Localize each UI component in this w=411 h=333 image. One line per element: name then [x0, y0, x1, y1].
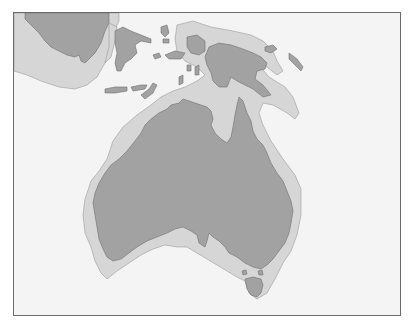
- bass-strait-island-1: [242, 270, 247, 275]
- new-ireland: [289, 53, 303, 71]
- map-frame: [13, 12, 401, 316]
- seram: [165, 51, 185, 59]
- tanimbar: [179, 75, 183, 85]
- flores: [131, 85, 147, 91]
- maluku-island-1: [163, 39, 169, 43]
- java-bali: [105, 87, 127, 93]
- map-canvas: [13, 12, 401, 316]
- aru-islands: [195, 65, 199, 75]
- maluku-island-2: [187, 65, 191, 71]
- sulawesi: [115, 27, 151, 71]
- halmahera: [161, 25, 169, 37]
- bass-strait-island-2: [258, 270, 263, 275]
- tasmania: [245, 277, 263, 297]
- buru: [153, 53, 161, 59]
